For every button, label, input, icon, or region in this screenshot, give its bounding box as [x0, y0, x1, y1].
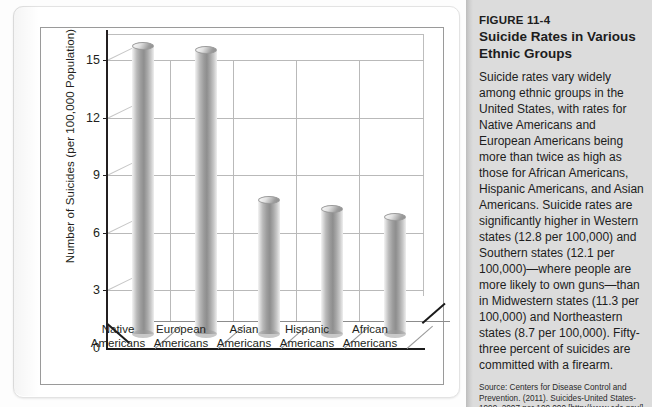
caption-panel-left-edge — [466, 0, 473, 407]
figure-source-citation: Source: Centers for Disease Control and … — [479, 383, 647, 407]
figure-body-text: Suicide rates vary widely among ethnic g… — [479, 69, 647, 373]
category-divider-4 — [359, 60, 360, 322]
gridline-9 — [107, 175, 424, 176]
bar-hispanic-americans — [321, 209, 343, 334]
x-axis-labels: Native Americans European Americans Asia… — [40, 322, 444, 362]
y-axis-title: Number of Suicides (per 100,000 Populati… — [64, 21, 76, 271]
bar-cap — [384, 213, 406, 221]
y-tick-label-15: 15 — [86, 53, 100, 67]
bar-cap — [258, 196, 280, 204]
bar-cap — [195, 46, 217, 54]
y-tick-label-6: 6 — [93, 226, 100, 240]
y-tick-label-3: 3 — [93, 283, 100, 297]
x-label-african-americans: African Americans — [327, 322, 413, 350]
category-divider-3 — [296, 60, 297, 322]
category-divider-1 — [170, 60, 171, 322]
bar-cap — [132, 42, 154, 50]
x-label-line-2: Americans — [327, 336, 413, 350]
plot-area: 15 12 9 6 3 0 — [107, 60, 424, 348]
y-tick-label-9: 9 — [93, 168, 100, 182]
bar-european-americans — [195, 50, 217, 334]
y-tick-label-12: 12 — [86, 111, 100, 125]
bar-african-americans — [384, 217, 406, 334]
figure-number: FIGURE 11-4 — [479, 14, 647, 26]
gridline-15 — [107, 60, 424, 61]
bar-cap — [321, 205, 343, 213]
figure-page: Number of Suicides (per 100,000 Populati… — [0, 0, 652, 407]
bar-native-americans — [132, 46, 154, 334]
figure-title: Suicide Rates in Various Ethnic Groups — [479, 29, 647, 62]
gridline-12 — [107, 118, 424, 119]
caption-content: FIGURE 11-4 Suicide Rates in Various Eth… — [479, 14, 647, 394]
x-label-line-1: African — [327, 322, 413, 336]
y-axis-line — [106, 30, 108, 348]
bar-asian-americans — [258, 200, 280, 334]
category-divider-2 — [233, 60, 234, 322]
